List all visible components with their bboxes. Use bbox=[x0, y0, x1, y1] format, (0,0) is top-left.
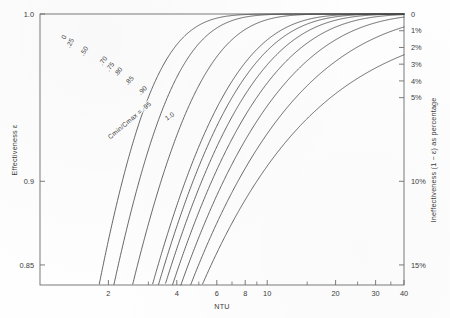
y-tick-label: 0.85 bbox=[20, 261, 34, 270]
curve-label: .50 bbox=[78, 45, 89, 57]
y-axis-title: Effectiveness ε bbox=[10, 124, 19, 175]
effectiveness-ntu-chart: 246810203040 1.00.90.85 01%2%3%4%5%10%15… bbox=[0, 0, 450, 318]
x-tick-label: 40 bbox=[400, 289, 408, 298]
curve-label: 0 bbox=[60, 33, 68, 40]
right-axis-title: Ineffectiveness (1 − ε) as percentage bbox=[429, 98, 438, 223]
x-tick-label: 6 bbox=[215, 289, 219, 298]
right-tick-label: 3% bbox=[411, 60, 422, 69]
curve-p80 bbox=[166, 14, 404, 283]
x-tick-label: 30 bbox=[371, 289, 379, 298]
y-tick-label: 1.0 bbox=[24, 10, 34, 19]
y-axis-ticks: 1.00.90.85 bbox=[20, 10, 45, 270]
curve-label: .85 bbox=[123, 74, 135, 86]
curve-label: Cmin/Cmax = .95 bbox=[106, 100, 152, 140]
curve-p95 bbox=[191, 27, 404, 284]
right-tick-label: 0 bbox=[411, 10, 415, 19]
plot-border bbox=[40, 14, 404, 285]
right-tick-label: 10% bbox=[411, 177, 426, 186]
x-axis-title: NTU bbox=[214, 302, 229, 311]
right-tick-label: 5% bbox=[411, 93, 422, 102]
right-tick-label: 4% bbox=[411, 77, 422, 86]
curve-label: .90 bbox=[136, 84, 148, 96]
x-tick-label: 2 bbox=[106, 289, 110, 298]
x-tick-label: 8 bbox=[243, 289, 247, 298]
right-tick-label: 1% bbox=[411, 26, 422, 35]
x-tick-label: 20 bbox=[331, 289, 339, 298]
x-tick-label: 4 bbox=[175, 289, 179, 298]
curve-p25 bbox=[114, 14, 404, 284]
curve-label: .80 bbox=[112, 65, 124, 77]
plot-frame bbox=[40, 14, 404, 285]
curve-label: 1.0 bbox=[164, 110, 176, 121]
right-tick-label: 15% bbox=[411, 261, 426, 270]
curve-label-group: 00.25.25.50.50.70.70.75.75.80.80.85.85.9… bbox=[60, 33, 176, 140]
curve-p75 bbox=[159, 14, 404, 284]
curve-p50 bbox=[133, 14, 404, 284]
curve-group bbox=[99, 14, 404, 285]
x-axis-ticks: 246810203040 bbox=[106, 280, 408, 298]
right-tick-label: 2% bbox=[411, 43, 422, 52]
y-tick-label: 0.9 bbox=[24, 177, 34, 186]
x-tick-label: 10 bbox=[263, 289, 271, 298]
right-axis-ticks: 01%2%3%4%5%10%15% bbox=[399, 10, 426, 270]
chart-figure: 246810203040 1.00.90.85 01%2%3%4%5%10%15… bbox=[0, 0, 450, 318]
